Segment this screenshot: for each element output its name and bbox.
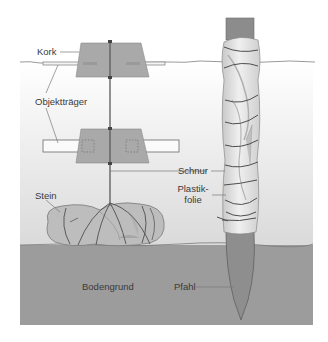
label-pfahl: Pfahl — [174, 281, 196, 292]
upper-cork — [76, 43, 149, 77]
diagram-figure: Kork Objektträger Stein Schnur Plastik- … — [0, 0, 328, 342]
label-kork: Kork — [37, 46, 57, 57]
label-bodengrund: Bodengrund — [82, 281, 134, 292]
stone-bundle — [47, 203, 164, 246]
label-plastikfolie-line2: folie — [184, 194, 201, 205]
label-plastikfolie-line1: Plastik- — [177, 183, 208, 194]
ground-area — [20, 245, 313, 325]
label-stein: Stein — [35, 190, 57, 201]
label-objekttraeger: Objektträger — [35, 96, 87, 107]
label-schnur: Schnur — [172, 165, 208, 176]
label-plastikfolie: Plastik- folie — [175, 183, 211, 205]
